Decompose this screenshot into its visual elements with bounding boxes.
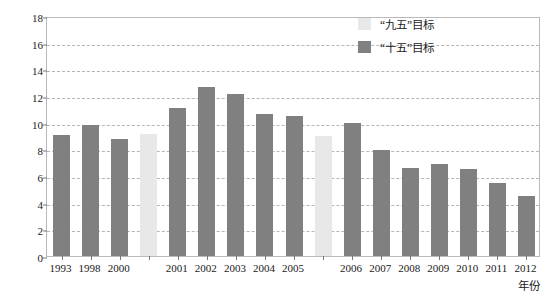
x-axis-tickmark [178, 256, 179, 260]
x-axis-tick-label: 2007 [369, 262, 391, 274]
bar [53, 135, 70, 256]
x-axis-tick-label: 2012 [514, 262, 536, 274]
bar [518, 196, 535, 256]
y-axis-tick-label: 10 [32, 119, 43, 131]
x-axis-tickmark [439, 256, 440, 260]
x-axis-tickmark [352, 256, 353, 260]
x-axis-tick-label: 2002 [195, 262, 217, 274]
bar [256, 114, 273, 256]
bar [460, 169, 477, 256]
x-axis-tickmark [410, 256, 411, 260]
bar [227, 94, 244, 256]
x-axis-tickmark [526, 256, 527, 260]
x-axis-tick-label: 2003 [224, 262, 246, 274]
legend-label: “九五”目标 [380, 16, 434, 32]
x-axis-tick-label: 2010 [456, 262, 478, 274]
x-axis-tickmark [149, 256, 150, 260]
plot-area: 024681012141618 [46, 17, 540, 257]
bar [373, 150, 390, 256]
bar [198, 87, 215, 256]
bar [82, 125, 99, 256]
x-axis-tick-label: 2005 [282, 262, 304, 274]
x-axis-tick-label: 2001 [166, 262, 188, 274]
x-axis-tick-label: 2006 [340, 262, 362, 274]
bar [169, 108, 186, 256]
x-axis-tickmark [91, 256, 92, 260]
legend-swatch-icon [358, 41, 371, 53]
y-axis-tick-label: 16 [32, 39, 43, 51]
x-axis-tick-label: 2004 [253, 262, 275, 274]
x-axis-tickmark [236, 256, 237, 260]
legend-label: “十五”目标 [380, 39, 434, 55]
x-axis-tickmark [497, 256, 498, 260]
x-axis-tickmark [62, 256, 63, 260]
chart-figure: NH3-N/(万 t/a) 年份 024681012141618 1993199… [0, 0, 548, 308]
bar [315, 136, 332, 256]
bar [344, 123, 361, 256]
x-axis-label: 年份 [518, 277, 540, 293]
x-axis-tickmark [468, 256, 469, 260]
x-axis-tick-label: 2009 [427, 262, 449, 274]
chart-legend: “九五”目标“十五”目标 [352, 12, 442, 59]
legend-swatch-icon [358, 18, 371, 30]
x-axis-tick-label: 2011 [486, 262, 508, 274]
y-axis-tickmark [43, 258, 47, 259]
x-axis-tickmark [207, 256, 208, 260]
x-axis-tickmark [323, 256, 324, 260]
bar [489, 183, 506, 256]
x-axis-tickmark [120, 256, 121, 260]
bar [402, 168, 419, 256]
y-axis-tick-label: 12 [32, 92, 43, 104]
x-axis-tick-label: 2008 [398, 262, 420, 274]
bar [140, 134, 157, 256]
bar-series [47, 18, 539, 256]
y-axis-tick-label: 14 [32, 65, 43, 77]
x-axis-tickmark [265, 256, 266, 260]
legend-item: “十五”目标 [358, 39, 434, 55]
bar [111, 139, 128, 256]
x-axis-tick-label: 2000 [108, 262, 130, 274]
x-axis-tick-label: 1993 [50, 262, 72, 274]
bar [431, 164, 448, 256]
bar [286, 116, 303, 256]
x-axis-tickmark [381, 256, 382, 260]
x-axis-tickmark [294, 256, 295, 260]
y-axis-tick-label: 18 [32, 12, 43, 24]
x-axis-tick-label: 1998 [79, 262, 101, 274]
legend-item: “九五”目标 [358, 16, 434, 32]
